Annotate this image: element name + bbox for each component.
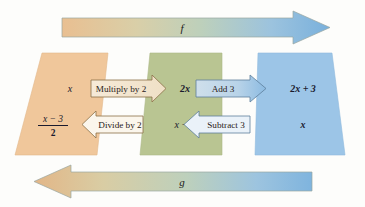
range-set-shape [255,53,345,155]
bottom-arrow-label: g [179,176,185,188]
set-shapes [15,53,345,155]
divide-by-2-label: Divide by 2 [98,120,142,130]
domain-bottom-denominator: 2 [51,128,56,138]
add-3-label: Add 3 [212,84,235,94]
range-bottom-value: x [300,119,306,130]
top-arrow-shape [62,11,330,44]
bottom-arrow-shape [34,165,312,198]
multiply-by-2-label: Multiply by 2 [96,84,147,94]
bottom-arrow-g: g [34,165,312,198]
intermediate-top-value: 2x [179,83,190,94]
domain-set-shape [15,53,108,155]
figure-canvas: f x x − 3 2 2x x − 3 2x + 3 x [0,0,365,207]
domain-top-value: x [67,83,73,94]
top-arrow-f: f [62,11,330,44]
intermediate-set-shape [140,53,222,155]
range-top-value: 2x + 3 [289,83,316,94]
subtract-3-label: Subtract 3 [207,120,245,130]
domain-bottom-numerator: x − 3 [42,114,63,124]
